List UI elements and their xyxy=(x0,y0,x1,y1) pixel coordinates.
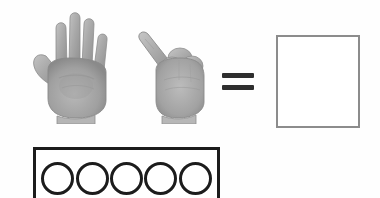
counter-strip xyxy=(33,147,220,198)
counter-circle[interactable] xyxy=(110,162,143,195)
counter-circle[interactable] xyxy=(76,162,109,195)
equals-bar-bottom xyxy=(222,85,254,90)
equals-sign-icon xyxy=(222,72,254,94)
counter-circle[interactable] xyxy=(144,162,177,195)
counter-circle[interactable] xyxy=(41,162,74,195)
counter-circle-row xyxy=(36,150,217,198)
counter-circle[interactable] xyxy=(179,162,212,195)
equals-bar-top xyxy=(222,73,254,78)
fist-one-finger-icon xyxy=(132,30,212,124)
empty-answer-box[interactable] xyxy=(276,35,360,128)
worksheet-page xyxy=(0,0,380,198)
open-hand-five-fingers-icon xyxy=(26,8,120,124)
